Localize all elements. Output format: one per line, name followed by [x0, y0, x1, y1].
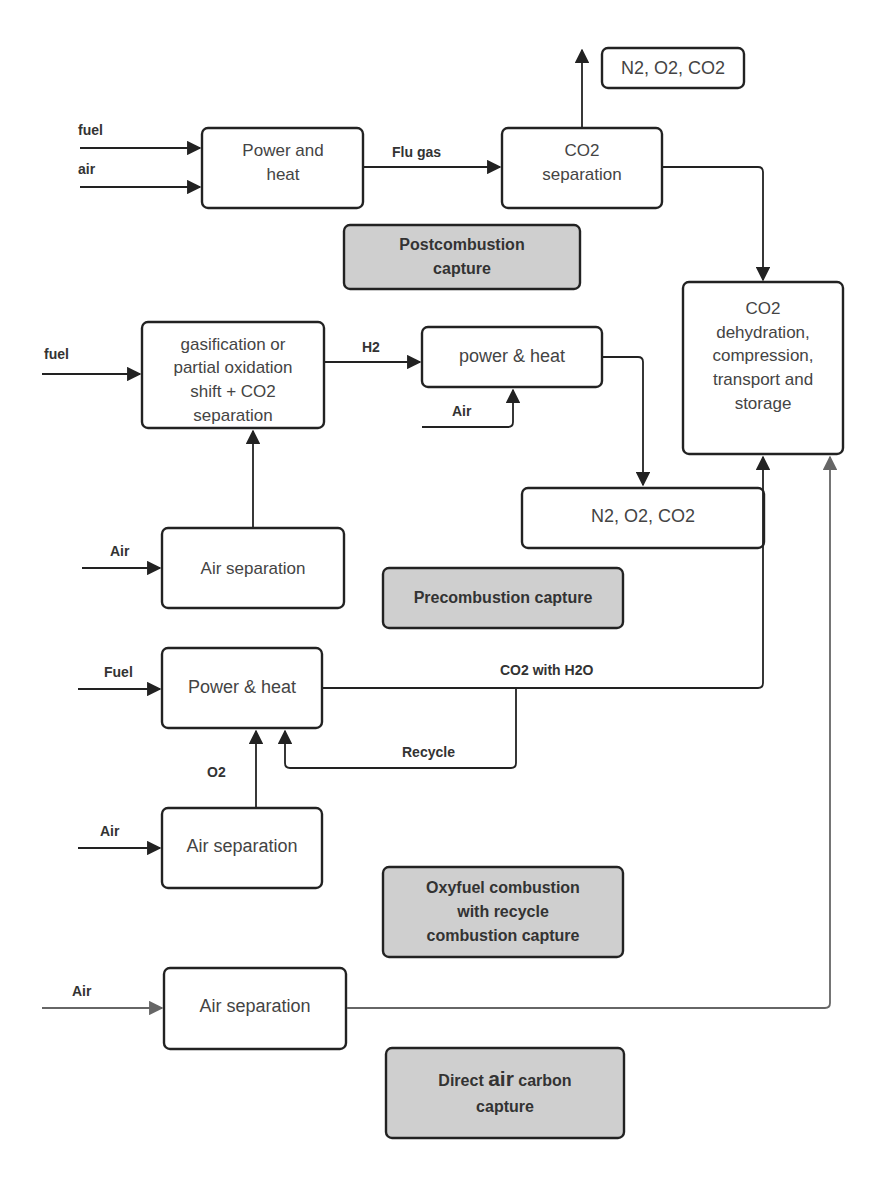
- h2-label: H2: [362, 339, 380, 355]
- storage-line4: transport and: [713, 370, 813, 389]
- oxyfuel-category-line1: Oxyfuel combustion: [426, 879, 580, 896]
- storage-section: CO2 dehydration, compression, transport …: [683, 282, 843, 454]
- postcombustion-category-box: [344, 225, 580, 289]
- precombustion-section: fuel gasification or partial oxidation s…: [42, 322, 764, 628]
- co2-separation-line2: separation: [542, 165, 621, 184]
- co2-capture-diagram: fuel air Power and heat Flu gas CO2 sepa…: [0, 0, 877, 1178]
- recycle-label: Recycle: [402, 744, 455, 760]
- gasification-line4: separation: [193, 406, 272, 425]
- oxy-fuel-label: Fuel: [104, 664, 133, 680]
- pre-vent-gases-label: N2, O2, CO2: [591, 506, 695, 526]
- air-input-label: air: [78, 161, 96, 177]
- fuel-input-label: fuel: [78, 122, 103, 138]
- storage-line5: storage: [735, 394, 792, 413]
- power-to-vent-arrow: [603, 357, 643, 485]
- oxy-air-separation-label: Air separation: [186, 836, 297, 856]
- oxy-airsep-input-label: Air: [100, 823, 120, 839]
- precombustion-category-label: Precombustion capture: [414, 589, 593, 606]
- storage-line3: compression,: [712, 346, 813, 365]
- postcombustion-section: fuel air Power and heat Flu gas CO2 sepa…: [78, 48, 763, 289]
- dac-air-separation-label: Air separation: [199, 996, 310, 1016]
- dac-air-label: Air: [72, 983, 92, 999]
- flu-gas-label: Flu gas: [392, 144, 441, 160]
- pre-fuel-label: fuel: [44, 346, 69, 362]
- co2-separation-line1: CO2: [565, 141, 600, 160]
- storage-line2: dehydration,: [716, 323, 810, 342]
- storage-line1: CO2: [746, 299, 781, 318]
- co2-with-h2o-label: CO2 with H2O: [500, 662, 593, 678]
- pre-airsep-input-label: Air: [110, 543, 130, 559]
- vent-gases-label: N2, O2, CO2: [621, 58, 725, 78]
- direct-air-section: Air Air separation Direct air carbon cap…: [42, 457, 830, 1138]
- pre-air-separation-label: Air separation: [201, 559, 306, 578]
- direct-air-category-box: [386, 1048, 624, 1138]
- postcombustion-category-line2: capture: [433, 260, 491, 277]
- power-and-heat-line1: Power and: [242, 141, 323, 160]
- oxy-power-heat-label: Power & heat: [188, 677, 296, 697]
- pre-power-heat-label: power & heat: [459, 346, 565, 366]
- postcombustion-category-line1: Postcombustion: [399, 236, 524, 253]
- oxyfuel-category-line2: with recycle: [456, 903, 549, 920]
- power-and-heat-line2: heat: [266, 165, 299, 184]
- pre-air-label: Air: [452, 403, 472, 419]
- oxyfuel-category-line3: combustion capture: [427, 927, 580, 944]
- gasification-line3: shift + CO2: [190, 382, 276, 401]
- separation-to-storage-arrow: [663, 167, 763, 280]
- gasification-line1: gasification or: [181, 335, 286, 354]
- gasification-line2: partial oxidation: [173, 358, 292, 377]
- o2-label: O2: [207, 764, 226, 780]
- direct-air-category-line2: capture: [476, 1098, 534, 1115]
